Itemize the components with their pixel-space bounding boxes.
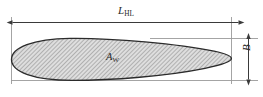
airfoil-shape	[12, 38, 232, 80]
figure-container: LHL AW B	[0, 0, 263, 97]
diagram-canvas	[0, 0, 263, 97]
